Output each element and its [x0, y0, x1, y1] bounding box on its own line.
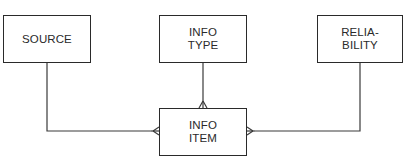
connector-reliability-to-info-item — [247, 63, 360, 135]
entity-source[interactable]: SOURCE — [3, 15, 91, 63]
crows-foot-many-icon — [151, 127, 159, 135]
connector-info-type-to-info-item — [199, 63, 207, 108]
entity-label: SOURCE — [22, 33, 72, 46]
entity-label: INFO TYPE — [188, 26, 218, 52]
entity-reliability[interactable]: RELIA- BILITY — [317, 15, 403, 63]
entity-info-item[interactable]: INFO ITEM — [159, 108, 247, 156]
entity-info-type[interactable]: INFO TYPE — [159, 15, 247, 63]
er-diagram: SOURCE INFO TYPE RELIA- BILITY INFO ITEM — [0, 0, 404, 158]
entity-label: RELIA- BILITY — [341, 26, 379, 52]
crows-foot-many-icon — [247, 127, 255, 135]
connector-source-to-info-item — [47, 63, 159, 135]
entity-label: INFO ITEM — [189, 119, 217, 145]
